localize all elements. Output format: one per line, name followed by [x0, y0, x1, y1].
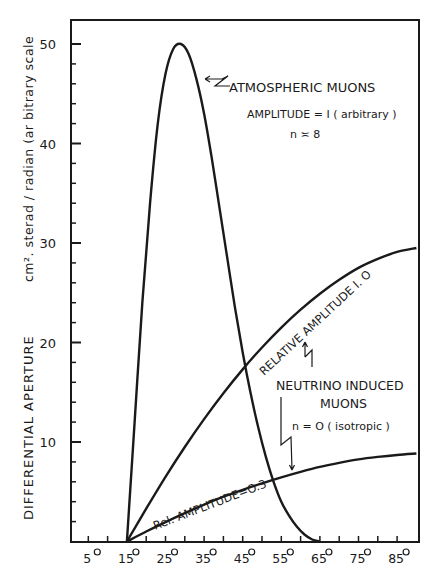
neutrino-rel-amplitude-0.3-curve	[127, 453, 417, 541]
relative-amplitude-1-label: RELATIVE AMPLITUDE I. O	[256, 267, 374, 378]
degree-symbol-icon	[94, 549, 100, 555]
x-tick-label: 65	[311, 551, 327, 566]
atmospheric-muons-annotation: ATMOSPHERIC MUONS AMPLITUDE = I ( arbitr…	[205, 76, 397, 141]
neutrino-rel-amplitude-1-curve	[127, 248, 417, 542]
zigzag-arrow-down-icon	[281, 397, 295, 470]
x-tick-label: 55	[272, 551, 288, 566]
arrow-left-icon	[205, 76, 230, 86]
atmospheric-amplitude-label: AMPLITUDE = I ( arbitrary )	[247, 108, 397, 121]
relative-amplitude-0.3-label: Rel. AMPLITUDE=O.3	[151, 477, 268, 533]
y-tick-label: 20	[39, 336, 56, 351]
y-tick-label: 10	[39, 435, 56, 450]
neutrino-muons-label: MUONS	[320, 396, 367, 411]
y-tick-label: 40	[39, 137, 56, 152]
x-tick-label: 25	[157, 551, 173, 566]
x-tick-label: 15	[118, 551, 134, 566]
y-tick-label: 30	[39, 236, 56, 251]
y-axis-label-units: cm². sterad / radian (ar bitrary scale	[21, 36, 36, 282]
y-axis-label-main: DIFFERENTIAL APERTURE	[21, 335, 36, 520]
x-tick-label: 75	[350, 551, 366, 566]
x-tick-label: 35	[195, 551, 211, 566]
x-tick-label: 85	[388, 551, 404, 566]
differential-aperture-chart: 1020304050 51525354555657585 DIFFERENTIA…	[0, 0, 438, 583]
x-tick-label: 45	[234, 551, 250, 566]
neutrino-induced-label: NEUTRINO INDUCED	[276, 378, 404, 393]
y-tick-label: 50	[39, 37, 56, 52]
zigzag-arrow-up-icon	[303, 342, 313, 367]
x-axis-ticks: 51525354555657585	[83, 536, 409, 566]
atmospheric-muons-label: ATMOSPHERIC MUONS	[229, 80, 375, 95]
x-tick-label: 5	[83, 551, 91, 566]
neutrino-n-label: n = O ( isotropic )	[292, 420, 390, 433]
y-axis-ticks: 1020304050	[39, 37, 81, 522]
atmospheric-n-label: n ≍ 8	[290, 128, 320, 141]
